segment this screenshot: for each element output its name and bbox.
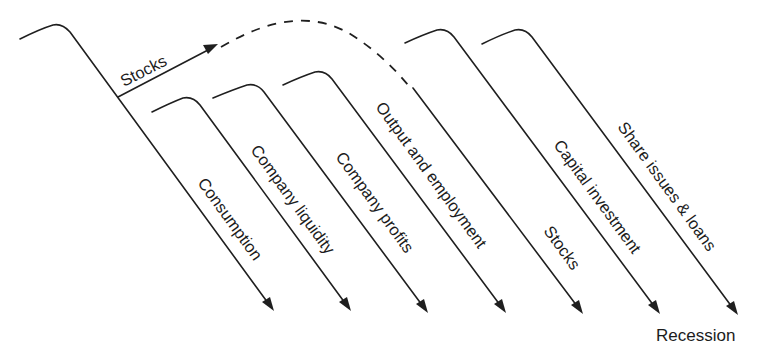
- consumption-label: Consumption: [195, 174, 267, 263]
- share-issues-loans-arrowhead: [726, 301, 738, 315]
- channel-capital-investment: Capital investment: [405, 30, 660, 314]
- stocks-branch: Stocks: [117, 21, 408, 97]
- capital-investment-line: [405, 30, 654, 306]
- output-employment-arrowhead: [494, 299, 506, 313]
- capital-investment-arrowhead: [648, 300, 660, 314]
- company-liquidity-label: Company liquidity: [248, 141, 340, 258]
- company-liquidity-arrowhead: [339, 297, 351, 311]
- recession-diagram: Consumption Stocks Company liquidity Com…: [0, 0, 776, 356]
- consumption-arrowhead: [262, 297, 274, 311]
- company-liquidity-line: [152, 98, 345, 303]
- stocks-arrowhead: [571, 300, 583, 314]
- channel-stocks: Stocks: [413, 88, 584, 314]
- stocks-branch-arrowhead: [203, 44, 218, 54]
- channel-company-liquidity: Company liquidity: [152, 98, 351, 311]
- share-issues-loans-line: [482, 30, 732, 307]
- recession-label: Recession: [656, 326, 735, 345]
- channel-output-employment: Output and employment: [283, 72, 506, 313]
- company-profits-arrowhead: [416, 299, 428, 313]
- channel-share-issues-loans: Share issues & loans: [482, 30, 738, 315]
- stocks-dashed-arc: [221, 21, 408, 85]
